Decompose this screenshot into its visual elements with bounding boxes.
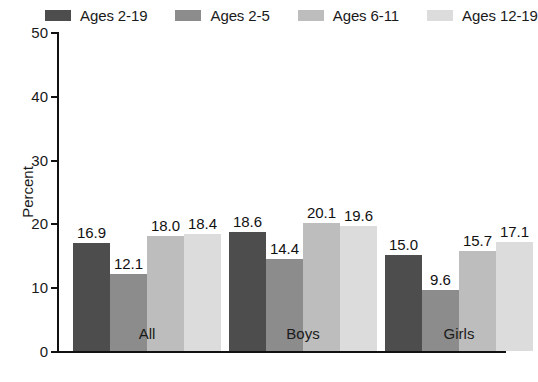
legend-swatch-icon <box>45 10 71 21</box>
y-tick-label: 20 <box>31 216 48 231</box>
y-tick-mark <box>51 351 58 353</box>
bar-group: 15.09.615.717.1 <box>385 32 533 351</box>
legend-swatch-icon <box>427 10 453 21</box>
y-tick-label: 10 <box>31 280 48 295</box>
y-tick-label: 30 <box>31 152 48 167</box>
y-tick-mark <box>51 96 58 98</box>
y-axis-title: Percent <box>19 166 36 218</box>
x-axis-label: Boys <box>286 326 319 342</box>
bar-value-label: 18.0 <box>151 218 180 234</box>
y-tick-mark <box>51 223 58 225</box>
bar-group: 16.912.118.018.4 <box>73 32 221 351</box>
legend-item[interactable]: Ages 6-11 <box>298 8 399 23</box>
bar-value-label: 18.4 <box>188 216 217 232</box>
legend-label: Ages 2-5 <box>210 8 269 23</box>
bar-value-label: 20.1 <box>307 205 336 221</box>
bar-group: 18.614.420.119.6 <box>229 32 377 351</box>
legend-swatch-icon <box>175 10 201 21</box>
legend-label: Ages 6-11 <box>333 8 399 23</box>
y-tick-label: 0 <box>40 344 48 359</box>
y-axis-line <box>57 32 59 352</box>
bar[interactable]: 18.4 <box>184 234 221 351</box>
bar[interactable]: 16.9 <box>73 243 110 351</box>
bar[interactable]: 18.6 <box>229 232 266 351</box>
chart-legend: Ages 2-19Ages 2-5Ages 6-11Ages 12-19 <box>0 4 530 26</box>
bar-value-label: 9.6 <box>430 272 451 288</box>
legend-label: Ages 2-19 <box>80 8 147 23</box>
legend-item[interactable]: Ages 2-19 <box>45 8 147 23</box>
bar-value-label: 12.1 <box>114 256 143 272</box>
bar-value-label: 16.9 <box>77 225 106 241</box>
legend-swatch-icon <box>298 10 324 21</box>
x-axis-line <box>57 351 506 353</box>
y-tick-label: 40 <box>31 88 48 103</box>
y-tick-mark <box>51 32 58 34</box>
bar[interactable]: 15.0 <box>385 255 422 351</box>
bar[interactable]: 19.6 <box>340 226 377 351</box>
bar-value-label: 17.1 <box>500 224 529 240</box>
bar-value-label: 19.6 <box>344 208 373 224</box>
y-tick-mark <box>51 287 58 289</box>
y-tick-mark <box>51 160 58 162</box>
legend-item[interactable]: Ages 12-19 <box>427 8 538 23</box>
bar-value-label: 18.6 <box>233 214 262 230</box>
bar-value-label: 14.4 <box>270 241 299 257</box>
bar[interactable]: 17.1 <box>496 242 533 351</box>
plot-area: 01020304050 16.912.118.018.418.614.420.1… <box>57 32 506 351</box>
legend-item[interactable]: Ages 2-5 <box>175 8 269 23</box>
bar-value-label: 15.7 <box>463 233 492 249</box>
legend-label: Ages 12-19 <box>462 8 538 23</box>
y-axis-title-container: Percent <box>0 32 20 351</box>
x-axis-label: Girls <box>444 326 475 342</box>
x-axis-label: All <box>139 326 156 342</box>
y-tick-label: 50 <box>31 25 48 40</box>
bar-value-label: 15.0 <box>389 237 418 253</box>
